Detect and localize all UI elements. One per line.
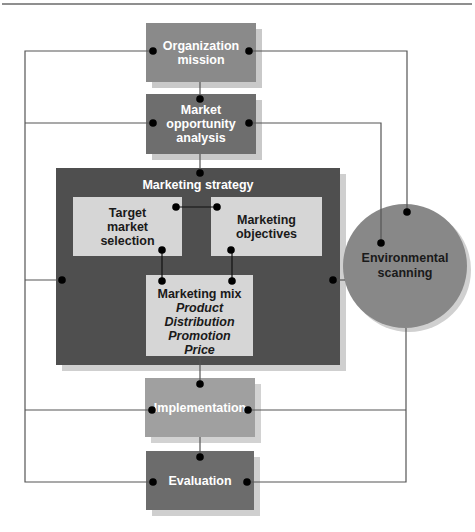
evaluation-label: Evaluation [168, 474, 231, 488]
evaluation-node: Evaluation [146, 451, 254, 510]
marketing-mix-item-product: Product [176, 301, 223, 315]
organization-mission-label-2: mission [177, 53, 224, 67]
marketing-mix-item-price: Price [184, 343, 215, 357]
marketing-mix-label: Marketing mix [157, 287, 241, 301]
target-market-label-1: Target [109, 206, 146, 220]
marketing-strategy-title: Marketing strategy [56, 178, 340, 192]
target-market-node: Target market selection [73, 197, 182, 256]
environmental-scanning-node: Environmental scanning [343, 204, 467, 328]
target-market-label-2: market [107, 220, 148, 234]
market-opportunity-node: Market opportunity analysis [146, 94, 256, 154]
marketing-objectives-label-1: Marketing [237, 213, 296, 227]
top-rule [2, 3, 472, 5]
implementation-label: Implementation [154, 401, 246, 415]
organization-mission-node: Organization mission [146, 23, 256, 82]
market-opportunity-label-2: opportunity [166, 117, 235, 131]
marketing-mix-item-promotion: Promotion [168, 329, 231, 343]
marketing-mix-item-distribution: Distribution [164, 315, 234, 329]
environmental-scanning-label-1: Environmental [362, 251, 449, 266]
market-opportunity-label-3: analysis [176, 131, 225, 145]
marketing-mix-node: Marketing mix Product Distribution Promo… [146, 275, 253, 356]
market-opportunity-label-1: Market [181, 103, 221, 117]
target-market-label-3: selection [100, 234, 154, 248]
environmental-scanning-label-2: scanning [378, 266, 433, 281]
organization-mission-label-1: Organization [163, 39, 239, 53]
marketing-objectives-node: Marketing objectives [211, 197, 322, 256]
implementation-node: Implementation [145, 378, 255, 437]
marketing-objectives-label-2: objectives [236, 227, 297, 241]
